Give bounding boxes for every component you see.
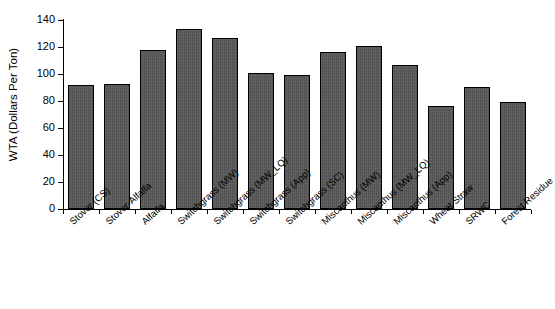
x-axis-tick [531, 210, 532, 214]
y-axis-tick-label: 80 [25, 95, 55, 106]
y-axis-tick [58, 101, 63, 102]
y-axis-tick-label: 20 [25, 176, 55, 187]
y-axis-tick [58, 182, 63, 183]
y-axis-tick-label: 0 [25, 203, 55, 214]
bar [176, 29, 201, 209]
y-axis-tick [58, 155, 63, 156]
y-axis-tick-label: 40 [25, 149, 55, 160]
bar [500, 102, 525, 209]
y-axis-tick-label: 100 [25, 68, 55, 79]
x-axis-tick [63, 210, 64, 214]
y-axis-tick [58, 47, 63, 48]
y-axis-tick [58, 74, 63, 75]
x-axis-tick [243, 210, 244, 214]
x-axis-tick [459, 210, 460, 214]
y-axis-tick [58, 209, 63, 210]
x-axis-tick [279, 210, 280, 214]
x-axis-tick [207, 210, 208, 214]
x-axis-tick [423, 210, 424, 214]
bar [68, 85, 93, 209]
y-axis-tick [58, 128, 63, 129]
y-axis-tick [58, 20, 63, 21]
y-axis-tick-label: 140 [25, 14, 55, 25]
x-axis-tick [387, 210, 388, 214]
y-axis-title: WTA (Dollars Per Ton) [2, 0, 24, 209]
y-axis-tick-labels: 020406080100120140 [23, 0, 55, 309]
x-axis-tick [315, 210, 316, 214]
x-axis-tick [171, 210, 172, 214]
y-axis-tick-label: 120 [25, 41, 55, 52]
y-axis-tick-label: 60 [25, 122, 55, 133]
x-axis-tick [351, 210, 352, 214]
x-axis-tick [495, 210, 496, 214]
x-axis-tick [135, 210, 136, 214]
x-axis-tick [99, 210, 100, 214]
